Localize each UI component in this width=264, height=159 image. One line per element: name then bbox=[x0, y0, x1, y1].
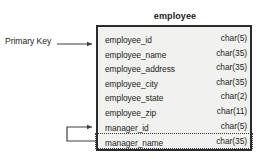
self-reference-arrow bbox=[67, 127, 97, 141]
er-diagram: employee employee_idchar(5)employee_name… bbox=[0, 0, 264, 159]
connector-layer bbox=[0, 0, 264, 159]
